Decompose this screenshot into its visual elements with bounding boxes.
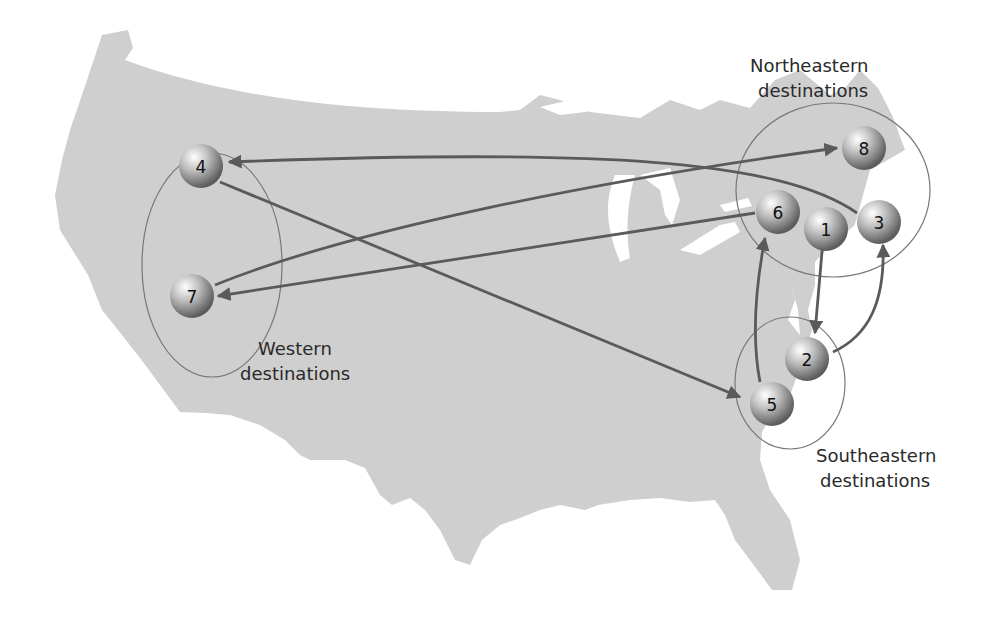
node-4[interactable]: 4 — [179, 144, 223, 188]
southeastern-label-line1: Southeastern — [816, 445, 936, 466]
node-6[interactable]: 6 — [756, 190, 800, 234]
node-2[interactable]: 2 — [785, 337, 829, 381]
node-7-label: 7 — [187, 287, 198, 307]
western-label-line1: Western — [258, 338, 332, 359]
route-map: 4 7 8 6 1 3 2 5 Western destinations Nor… — [0, 0, 984, 625]
northeastern-label-line2: destinations — [758, 80, 868, 101]
node-6-label: 6 — [773, 203, 784, 223]
node-8-label: 8 — [859, 139, 870, 159]
node-1-label: 1 — [821, 220, 832, 240]
southeastern-label-line2: destinations — [820, 470, 930, 491]
node-5[interactable]: 5 — [750, 382, 794, 426]
node-2-label: 2 — [802, 350, 813, 370]
node-1[interactable]: 1 — [804, 207, 848, 251]
node-5-label: 5 — [767, 395, 778, 415]
node-3[interactable]: 3 — [857, 200, 901, 244]
node-4-label: 4 — [196, 157, 207, 177]
western-label-line2: destinations — [240, 363, 350, 384]
node-3-label: 3 — [874, 213, 885, 233]
northeastern-label-line1: Northeastern — [750, 55, 868, 76]
node-7[interactable]: 7 — [170, 274, 214, 318]
node-8[interactable]: 8 — [842, 126, 886, 170]
